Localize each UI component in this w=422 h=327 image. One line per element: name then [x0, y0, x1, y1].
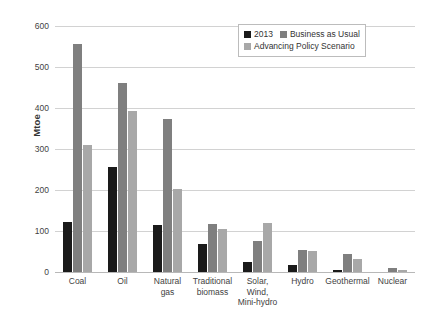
x-axis-label-line: Mini-hydro: [235, 297, 280, 308]
legend-entry: 2013: [244, 29, 273, 39]
bar: [73, 44, 82, 272]
bar: [288, 265, 297, 272]
x-axis-label-line: biomass: [190, 287, 235, 298]
chart-legend: 2013Business as UsualAdvancing Policy Sc…: [238, 24, 366, 57]
bar: [253, 241, 262, 272]
bar: [298, 250, 307, 272]
x-axis-label-line: Traditional: [190, 276, 235, 287]
x-axis-label: Oil: [100, 276, 145, 287]
x-axis-label: Coal: [55, 276, 100, 287]
bar: [388, 268, 397, 272]
bar: [333, 270, 342, 272]
x-axis-label-line: gas: [145, 287, 190, 298]
bar: [218, 229, 227, 272]
x-axis-label-line: Geothermal: [325, 276, 370, 287]
x-axis-label-line: Solar,: [235, 276, 280, 287]
bar: [173, 189, 182, 272]
x-axis-label-line: Hydro: [280, 276, 325, 287]
y-tick-label-600: 600: [35, 21, 49, 31]
bar: [118, 83, 127, 272]
x-axis-label: Geothermal: [325, 276, 370, 287]
bar-groups: [55, 26, 415, 272]
bar: [63, 222, 72, 272]
legend-label: 2013: [254, 29, 273, 39]
bar-group: [145, 26, 190, 272]
bar: [153, 225, 162, 272]
legend-entry: Business as Usual: [280, 29, 360, 39]
y-tick-label-300: 300: [35, 144, 49, 154]
bar: [308, 251, 317, 272]
bar-group: [55, 26, 100, 272]
y-tick-label-400: 400: [35, 103, 49, 113]
x-axis-label-line: Nuclear: [370, 276, 415, 287]
y-tick-label-500: 500: [35, 62, 49, 72]
bar-group: [235, 26, 280, 272]
legend-label: Advancing Policy Scenario: [254, 41, 355, 51]
bar-group: [190, 26, 235, 272]
bar: [343, 254, 352, 272]
x-axis-label-line: Natural: [145, 276, 190, 287]
bar: [83, 145, 92, 272]
bar: [198, 244, 207, 272]
x-axis-label-line: Coal: [55, 276, 100, 287]
y-tick-label-200: 200: [35, 185, 49, 195]
bar-group: [370, 26, 415, 272]
gridline-0: 0: [55, 272, 415, 273]
bar: [128, 111, 137, 272]
bar: [208, 224, 217, 272]
legend-swatch-icon: [244, 31, 251, 38]
bar: [263, 223, 272, 272]
bar: [163, 119, 172, 272]
y-tick-label-0: 0: [44, 267, 49, 277]
legend-row: 2013Business as Usual: [244, 28, 360, 40]
y-tick-label-100: 100: [35, 226, 49, 236]
bar-chart: Mtoe 6005004003002001000 CoalOilNaturalg…: [0, 0, 422, 327]
legend-swatch-icon: [244, 43, 251, 50]
bar: [353, 259, 362, 272]
x-axis-label-line: Oil: [100, 276, 145, 287]
bar: [243, 262, 252, 272]
x-axis-label: Hydro: [280, 276, 325, 287]
legend-row: Advancing Policy Scenario: [244, 40, 360, 52]
x-axis-labels: CoalOilNaturalgasTraditionalbiomassSolar…: [55, 276, 415, 324]
bar: [108, 167, 117, 272]
legend-entry: Advancing Policy Scenario: [244, 41, 355, 51]
x-axis-label: Traditionalbiomass: [190, 276, 235, 297]
bar-group: [100, 26, 145, 272]
bar-group: [325, 26, 370, 272]
legend-swatch-icon: [280, 31, 287, 38]
x-axis-label-line: Wind,: [235, 287, 280, 298]
legend-label: Business as Usual: [290, 29, 360, 39]
bar: [398, 270, 407, 272]
x-axis-label: Naturalgas: [145, 276, 190, 297]
x-axis-label: Solar,Wind,Mini-hydro: [235, 276, 280, 308]
plot-area: 6005004003002001000: [55, 26, 415, 272]
x-axis-label: Nuclear: [370, 276, 415, 287]
bar-group: [280, 26, 325, 272]
